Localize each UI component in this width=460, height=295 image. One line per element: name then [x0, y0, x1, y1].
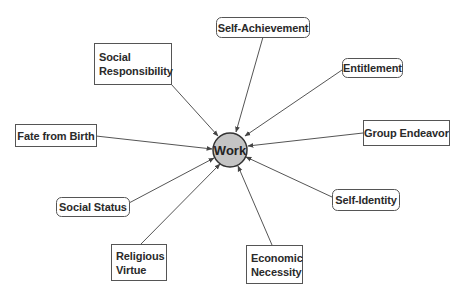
arrow-self-identity [246, 157, 332, 197]
center-node: Work [213, 133, 247, 167]
arrow-entitlement [245, 70, 342, 136]
node-social-responsibility: SocialResponsibility [95, 44, 174, 85]
arrow-social-responsibility [171, 84, 218, 136]
arrow-fate-from-birth [96, 136, 212, 149]
node-label: Self-Identity [335, 194, 398, 206]
arrow-economic-necessity [238, 166, 272, 245]
node-label: Entitlement [343, 62, 402, 74]
node-label: Virtue [116, 264, 146, 276]
node-religious-virtue: ReligiousVirtue [112, 245, 167, 281]
work-label: Work [214, 143, 247, 158]
node-group-endeavor: Group Endeavor [364, 121, 450, 146]
node-self-identity: Self-Identity [333, 190, 400, 211]
node-social-status: Social Status [57, 198, 130, 217]
node-label: Religious [116, 250, 165, 262]
node-label: Responsibility [99, 65, 174, 77]
node-economic-necessity: EconomicNecessity [247, 246, 303, 284]
node-label: Social [99, 51, 131, 63]
node-label: Self-Achievement [218, 22, 309, 34]
work-concept-diagram: Self-AchievementSocialResponsibilityEnti… [0, 0, 460, 295]
node-self-achievement: Self-Achievement [217, 18, 310, 38]
node-box [95, 44, 172, 85]
arrow-social-status [129, 158, 214, 203]
arrow-group-endeavor [248, 133, 363, 146]
node-fate-from-birth: Fate from Birth [16, 125, 97, 147]
node-entitlement: Entitlement [343, 59, 403, 78]
arrow-self-achievement [236, 37, 263, 132]
node-label: Fate from Birth [17, 130, 95, 142]
node-label: Economic [251, 252, 303, 264]
node-label: Group Endeavor [364, 127, 450, 139]
node-label: Necessity [251, 266, 302, 278]
node-label: Social Status [59, 201, 127, 213]
